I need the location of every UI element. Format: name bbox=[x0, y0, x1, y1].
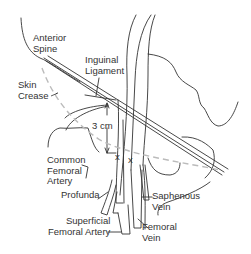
label-saphenous-vein: Saphenous Vein bbox=[152, 191, 200, 212]
label-anterior-spine: Anterior Spine bbox=[33, 33, 66, 54]
femoral-anatomy-diagram: Anterior Spine Inguinal Ligament Skin Cr… bbox=[0, 0, 251, 254]
inguinal-ligament-line-1 bbox=[48, 56, 228, 169]
label-inguinal-ligament: Inguinal Ligament bbox=[85, 55, 124, 76]
vessel-top-3 bbox=[143, 15, 155, 165]
artery-right bbox=[123, 120, 124, 203]
label-femoral-vein: Femoral Vein bbox=[142, 222, 177, 243]
superficial-femoral-artery-line bbox=[118, 205, 130, 234]
label-skin-crease: Skin Crease bbox=[18, 80, 49, 101]
marker-x-vein: x bbox=[128, 155, 133, 166]
label-superficial-femoral-artery: Superficial Femoral Artery bbox=[48, 216, 110, 237]
label-common-femoral-artery: Common Femoral Artery bbox=[47, 155, 86, 187]
label-profunda: Profunda bbox=[61, 190, 100, 201]
thigh-outline-right bbox=[148, 54, 238, 126]
label-3cm: 3 cm bbox=[92, 121, 113, 132]
femoral-vein-left bbox=[131, 170, 142, 228]
marker-x-artery: x bbox=[115, 152, 120, 163]
